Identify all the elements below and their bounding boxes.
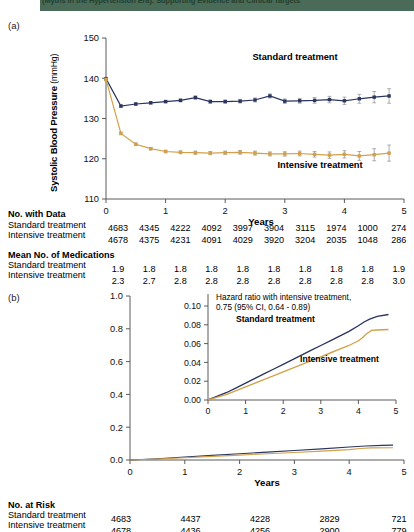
panel-a-data-marker	[104, 78, 107, 81]
panel-b-inset-y-tick-label: 0.06	[184, 339, 201, 349]
panel-a-data-marker	[358, 154, 361, 157]
panel-a-data-marker	[373, 95, 376, 98]
panel-a-data-marker	[253, 98, 256, 101]
table-no-at-risk-cell: 779	[384, 526, 414, 532]
panel-a-data-marker	[283, 99, 286, 102]
panel-a-data-marker	[298, 99, 301, 102]
panel-a-data-marker	[134, 143, 137, 146]
panel-a-y-axis-title-main: Systolic Blood Pressure	[48, 84, 59, 192]
panel-a-line-intensive	[106, 79, 389, 155]
panel-a-data-marker	[209, 100, 212, 103]
panel-b-inset-x-tick-label: 4	[356, 406, 361, 416]
panel-b-x-tick-label: 3	[292, 467, 297, 477]
table-no-with-data-cell: 3115	[290, 223, 320, 233]
panel-a-data-marker	[343, 153, 346, 156]
panel-a-data-marker	[149, 147, 152, 150]
panel-a-data-marker	[134, 102, 137, 105]
table-no-at-risk-cell: 4436	[176, 526, 206, 532]
panel-a-series-label-intensive: Intensive treatment	[277, 160, 362, 170]
panel-a-data-marker	[328, 98, 331, 101]
table-mean-medications-cell: 2.3	[103, 276, 133, 286]
panel-b-inset-y-tick-label: 0.08	[184, 320, 201, 330]
panel-a-data-marker	[194, 96, 197, 99]
panel-a-data-marker	[164, 150, 167, 153]
panel-b-inset-y-tick-label: 0.04	[184, 358, 201, 368]
table-no-at-risk: No. at Risk Standard treatment Intensive…	[8, 500, 86, 530]
table-mean-medications-cell: 1.8	[321, 264, 351, 274]
panel-a-data-marker	[149, 101, 152, 104]
panel-b-inset-annotation-line2: 0.75 (95% CI, 0.64 - 0.89)	[216, 303, 310, 312]
table-no-with-data-cell: 1048	[353, 235, 383, 245]
panel-a-series-label-standard: Standard treatment	[252, 52, 337, 62]
table-no-with-data-cell: 4222	[165, 223, 195, 233]
panel-b-x-tick-label: 4	[347, 467, 352, 477]
panel-a-data-marker	[179, 151, 182, 154]
panel-b-plot: 1.00.80.60.40.20.0012345Years0.100.080.0…	[0, 288, 414, 494]
panel-b-y-tick-label: 1.0	[110, 291, 123, 301]
panel-a-y-tick-label: 140	[83, 74, 99, 84]
table-no-with-data-cell: 3920	[259, 235, 289, 245]
panel-a-y-tick-label: 150	[83, 33, 99, 43]
table-no-at-risk-cell: 4678	[106, 526, 136, 532]
panel-b-inset-annotation-line1: Hazard ratio with intensive treatment,	[216, 293, 351, 302]
table-mean-medications-cell: 1.8	[259, 264, 289, 274]
banner-title: (Myths in the Hypertension Era): Support…	[42, 0, 300, 5]
table-no-with-data-title: No. with Data	[8, 209, 86, 219]
table-no-with-data-cell: 286	[384, 235, 414, 245]
panel-a-data-marker	[164, 100, 167, 103]
panel-a-data-marker	[238, 99, 241, 102]
panel-b-inset-x-tick-label: 3	[318, 406, 323, 416]
panel-a-data-marker	[224, 151, 227, 154]
panel-a-data-marker	[238, 151, 241, 154]
panel-b-x-axis-title: Years	[254, 477, 280, 488]
table-mean-medications-cell: 1.8	[290, 264, 320, 274]
panel-a-y-tick-label: 120	[83, 154, 99, 164]
table-no-at-risk-cell: 4256	[245, 526, 275, 532]
table-no-with-data-cell: 3997	[228, 223, 258, 233]
panel-a-x-tick-label: 5	[401, 206, 406, 216]
table-no-with-data-cell: 4678	[103, 235, 133, 245]
table-mean-medications-cell: 1.8	[134, 264, 164, 274]
table-mean-medications-cell: 1.8	[165, 264, 195, 274]
page-banner: (Myths in the Hypertension Era): Support…	[40, 0, 414, 11]
panel-b-y-tick-label: 0.8	[110, 324, 123, 334]
panel-a-x-tick-label: 0	[103, 206, 108, 216]
table-mean-medications-cell: 1.8	[197, 264, 227, 274]
table-no-at-risk-cell: 2829	[315, 514, 345, 524]
panel-b-inset-x-tick-label: 2	[281, 406, 286, 416]
panel-a-data-marker	[179, 99, 182, 102]
table-no-at-risk-row-standard-label: Standard treatment	[8, 510, 86, 520]
panel-a-x-tick-label: 1	[163, 206, 168, 216]
table-no-with-data-row-intensive-label: Intensive treatment	[8, 230, 86, 240]
panel-a-data-marker	[387, 94, 390, 97]
table-no-with-data-cell: 1000	[353, 223, 383, 233]
panel-b-inset-x-tick-label: 5	[394, 406, 399, 416]
panel-a-y-axis-title: Systolic Blood Pressure (mmHg)	[48, 32, 59, 192]
table-mean-medications: Mean No. of Medications Standard treatme…	[8, 250, 115, 280]
panel-b-inset-y-tick-label: 0.00	[184, 395, 201, 405]
panel-a-chart: Systolic Blood Pressure (mmHg) 150140130…	[0, 16, 414, 206]
panel-a-data-marker	[268, 94, 271, 97]
panel-a-data-marker	[283, 152, 286, 155]
table-no-with-data-cell: 4091	[197, 235, 227, 245]
table-no-with-data-cell: 4375	[134, 235, 164, 245]
panel-a-x-tick-label: 3	[282, 206, 287, 216]
panel-a-data-marker	[224, 100, 227, 103]
table-mean-medications-cell: 3.0	[384, 276, 414, 286]
panel-b-inset-series-label-intensive: Intensive treatment	[300, 354, 379, 364]
table-mean-medications-cell: 1.8	[228, 264, 258, 274]
panel-a-y-tick-label: 130	[83, 114, 99, 124]
panel-a-data-marker	[328, 153, 331, 156]
table-mean-medications-row-standard-label: Standard treatment	[8, 260, 115, 270]
table-mean-medications-cell: 2.8	[259, 276, 289, 286]
table-mean-medications-cell: 1.8	[353, 264, 383, 274]
panel-a-data-marker	[119, 132, 122, 135]
table-no-with-data-cell: 1974	[321, 223, 351, 233]
table-mean-medications-row-intensive-label: Intensive treatment	[8, 270, 115, 280]
panel-a-data-marker	[313, 153, 316, 156]
table-no-with-data-cell: 3904	[259, 223, 289, 233]
panel-a-data-marker	[119, 104, 122, 107]
panel-a-data-marker	[268, 152, 271, 155]
table-no-with-data-cell: 2035	[321, 235, 351, 245]
panel-b-y-tick-label: 0.6	[110, 357, 123, 367]
